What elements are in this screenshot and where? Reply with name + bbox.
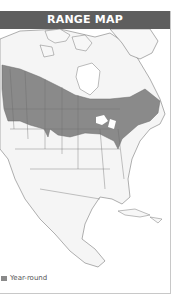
- legend: Year-round: [0, 273, 47, 283]
- range-map: [0, 29, 170, 269]
- range-map-title: RANGE MAP: [0, 11, 170, 29]
- swatch-icon: [1, 276, 7, 281]
- range-map-panel: RANGE MAP: [0, 11, 171, 294]
- legend-label-year-round: Year-round: [10, 274, 47, 282]
- north-america-map-icon: [0, 29, 170, 269]
